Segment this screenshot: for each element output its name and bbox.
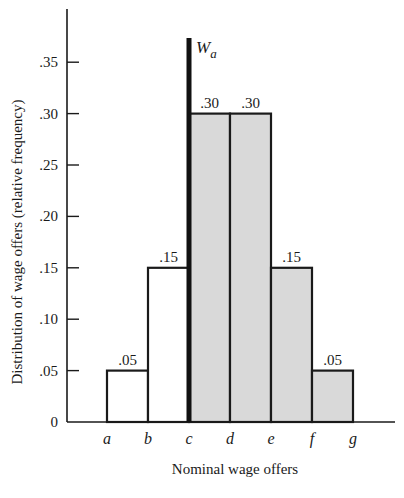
y-tick-label: .05 [39,363,58,379]
histogram-bar [312,371,353,422]
bars-group [107,114,353,422]
y-tick-label: .15 [39,260,58,276]
x-tick-label: d [226,430,235,447]
x-tick-labels: abcdefg [103,430,357,448]
histogram-bar [148,268,189,422]
bar-value-label: .30 [200,95,219,111]
wa-reservation-wage-line [187,38,192,422]
histogram-bar [107,371,148,422]
bar-value-label: .05 [323,352,342,368]
y-ticks: 0.05.10.15.20.25.30.35 [39,54,79,430]
x-tick-label: c [185,430,192,447]
x-axis-label: Nominal wage offers [172,461,299,477]
histogram-bar [271,268,312,422]
x-tick-label: e [267,430,274,447]
bar-value-label: .05 [118,352,137,368]
histogram-chart: 0.05.10.15.20.25.30.35 abcdefg .05.15.30… [0,0,404,498]
y-tick-label: .35 [39,54,58,70]
bar-value-label: .30 [241,95,260,111]
y-tick-label: .20 [39,208,58,224]
bar-value-label: .15 [159,249,178,265]
y-tick-label: 0 [51,414,59,430]
wa-label: Wa [196,38,217,61]
x-tick-label: g [349,430,357,448]
y-axis-label: Distribution of wage offers (relative fr… [9,99,26,384]
histogram-bar [230,114,271,422]
x-tick-label: b [144,430,152,447]
histogram-bar [189,114,230,422]
x-tick-label: a [103,430,111,447]
y-tick-label: .30 [39,106,58,122]
bar-value-label: .15 [282,249,301,265]
x-tick-label: f [310,430,317,448]
y-tick-label: .10 [39,311,58,327]
y-tick-label: .25 [39,157,58,173]
